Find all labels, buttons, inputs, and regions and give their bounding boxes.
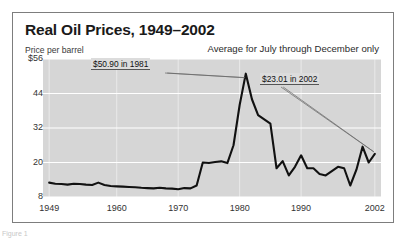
x-tick-label: 2002 [365,203,385,213]
x-tick-label: 1960 [107,203,127,213]
annotation-peak: $50.90 in 1981 [91,58,150,70]
x-tick-label: 1949 [39,203,59,213]
x-tick-label: 1990 [291,203,311,213]
x-tick-label: 1970 [168,203,188,213]
figure-frame: Real Oil Prices, 1949–2002 Price per bar… [12,12,394,223]
annotation-end: $23.01 in 2002 [260,73,319,85]
x-axis-ticks: 194919601970198019902002 [13,13,395,224]
figure-credit: Figure 1 [2,230,28,237]
x-tick-label: 1980 [230,203,250,213]
